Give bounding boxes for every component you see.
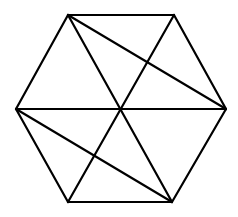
edge-upper-left [16, 15, 68, 109]
chord-topleft-right [68, 15, 226, 109]
edge-lower-right [172, 109, 226, 202]
edge-upper-right [174, 15, 226, 109]
hexagon-diagram [0, 0, 238, 217]
edge-lower-left [16, 109, 68, 202]
chord-left-bottomright [16, 109, 172, 202]
